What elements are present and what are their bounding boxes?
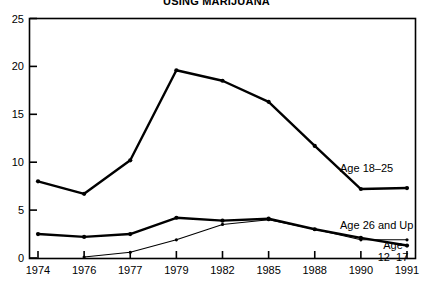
series-age-18-25 (36, 68, 409, 196)
series-label-age-12-17-line1: Age (383, 239, 403, 251)
x-axis-ticks (38, 251, 407, 258)
data-point (267, 100, 271, 104)
chart-svg: 0510152025 19741976197719791982198519881… (0, 0, 433, 287)
x-tick-label: 1976 (72, 264, 96, 276)
data-point (175, 238, 178, 241)
x-axis-labels: 197419761977197919821985198819901991 (26, 264, 419, 276)
y-axis-labels: 0510152025 (12, 13, 24, 265)
data-point (83, 255, 86, 258)
y-tick-label: 25 (12, 13, 24, 25)
data-point (220, 219, 224, 223)
data-point (359, 187, 363, 191)
data-point (174, 216, 178, 220)
chart-container: USING MARIJUANA 0510152025 1974197619771… (0, 0, 433, 287)
data-point (405, 186, 409, 190)
data-point (82, 235, 86, 239)
series-annotations: Age 18–25 Age 26 and Up Age 12–17 (340, 162, 413, 263)
x-tick-label: 1988 (303, 264, 327, 276)
y-tick-label: 20 (12, 60, 24, 72)
data-point (359, 236, 363, 240)
data-point (128, 158, 132, 162)
x-tick-label: 1979 (164, 264, 188, 276)
data-point (82, 192, 86, 196)
data-point (405, 238, 408, 241)
data-point (128, 232, 132, 236)
data-point (36, 232, 40, 236)
y-tick-label: 10 (12, 156, 24, 168)
y-tick-label: 15 (12, 108, 24, 120)
data-point (313, 144, 317, 148)
data-point (313, 227, 317, 231)
series-line (38, 70, 407, 194)
y-axis-ticks (30, 19, 37, 259)
data-point (129, 251, 132, 254)
x-tick-label: 1991 (395, 264, 419, 276)
x-tick-label: 1990 (349, 264, 373, 276)
x-tick-label: 1974 (26, 264, 50, 276)
y-tick-label: 0 (18, 252, 24, 264)
data-point (36, 179, 40, 183)
x-tick-label: 1985 (256, 264, 280, 276)
data-point (267, 217, 271, 221)
series-label-age-12-17-line2: 12–17 (378, 251, 409, 263)
data-point (174, 68, 178, 72)
x-tick-label: 1977 (118, 264, 142, 276)
data-point (220, 79, 224, 83)
series-label-age-26-and-up: Age 26 and Up (340, 219, 413, 231)
data-point (405, 243, 409, 247)
data-point (221, 223, 224, 226)
series-label-age-18-25: Age 18–25 (340, 162, 393, 174)
x-tick-label: 1982 (210, 264, 234, 276)
y-tick-label: 5 (18, 204, 24, 216)
